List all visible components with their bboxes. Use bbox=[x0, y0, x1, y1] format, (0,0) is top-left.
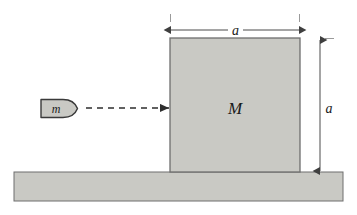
dimension-label-vertical: a bbox=[326, 101, 333, 116]
diagram-canvas: M m a a bbox=[0, 0, 357, 215]
ground-slab bbox=[14, 172, 343, 201]
block-M-label: M bbox=[227, 99, 243, 118]
dimension-label-horizontal: a bbox=[232, 23, 239, 38]
bullet-m-label: m bbox=[52, 102, 61, 116]
physics-diagram-figure: M m a a bbox=[0, 0, 357, 215]
